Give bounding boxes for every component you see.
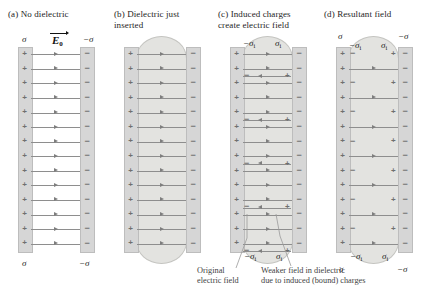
leader-original-field [236,214,247,268]
dielectric-capacitor-figure: (a) No dielectric σ −σ E0 σ −σ +−+−+−+−+… [0,0,424,293]
callout-original-electric-field: Original electric field [197,266,257,286]
callout-weaker-field: Weaker field in dielectric due to induce… [261,266,421,286]
leader-weaker-field [276,214,291,266]
callout-leader-lines [0,0,424,293]
